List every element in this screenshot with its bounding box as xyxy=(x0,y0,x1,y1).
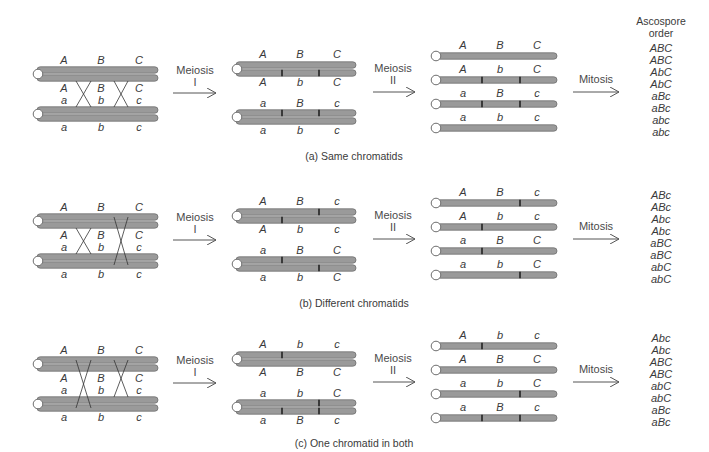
ascospore-genotype: aBc xyxy=(652,90,671,102)
gene-label: C xyxy=(135,229,143,241)
centromere-icon xyxy=(431,365,441,375)
meiosis-2-label: Meiosis xyxy=(374,352,412,364)
gene-label: B xyxy=(496,353,503,365)
chromatid xyxy=(37,365,158,371)
gene-label: c xyxy=(534,329,540,341)
gene-label: c xyxy=(136,121,142,133)
chromatid xyxy=(436,343,557,349)
gene-label: c xyxy=(534,401,540,413)
gene-label: C xyxy=(533,63,541,75)
gene-label: b xyxy=(497,258,503,270)
gene-label: B xyxy=(496,39,503,51)
ascospore-genotype: abC xyxy=(651,392,671,404)
centromere-icon xyxy=(232,402,242,412)
gene-label: b xyxy=(297,124,303,136)
gene-label: a xyxy=(260,414,266,426)
gene-label: C xyxy=(533,234,541,246)
panel-c: ABCABCabcabcMeiosisIAbcABCabCaBcMeiosisI… xyxy=(33,329,672,449)
meiosis-2-roman: II xyxy=(390,364,396,376)
gene-label: C xyxy=(333,271,341,283)
panel-caption: (b) Different chromatids xyxy=(299,297,409,309)
gene-label: B xyxy=(97,54,104,66)
centromere-icon xyxy=(431,389,441,399)
ascospore-genotype: aBc xyxy=(652,102,671,114)
ascospore-order-header-line2: order xyxy=(649,27,674,39)
mitosis-label: Mitosis xyxy=(579,363,614,375)
gene-label: A xyxy=(258,366,266,378)
gene-label: b xyxy=(98,384,104,396)
gene-label: A xyxy=(59,229,67,241)
ascospore-genotype: abC xyxy=(651,273,671,285)
meiosis-2-roman: II xyxy=(390,221,396,233)
meiosis-1-roman: I xyxy=(193,366,196,378)
ascospore-genotype: ABC xyxy=(649,356,673,368)
chromatid xyxy=(436,125,557,131)
ascospore-genotype: aBc xyxy=(652,404,671,416)
gene-label: C xyxy=(333,76,341,88)
gene-label: B xyxy=(496,186,503,198)
gene-label: b xyxy=(497,329,503,341)
ascospore-genotype: ABC xyxy=(649,42,673,54)
gene-label: c xyxy=(334,223,340,235)
gene-label: A xyxy=(258,195,266,207)
chromatid xyxy=(236,110,356,116)
chromatid xyxy=(436,53,557,59)
gene-label: C xyxy=(533,258,541,270)
chromatid xyxy=(436,391,557,397)
meiosis-1-label: Meiosis xyxy=(176,354,214,366)
gene-label: A xyxy=(258,48,266,60)
gene-label: b xyxy=(497,63,503,75)
gene-label: C xyxy=(533,353,541,365)
centromere-icon xyxy=(431,99,441,109)
gene-label: C xyxy=(533,39,541,51)
meiosis-1-label: Meiosis xyxy=(176,64,214,76)
gene-label: a xyxy=(260,244,266,256)
centromere-icon xyxy=(431,123,441,133)
gene-label: C xyxy=(333,387,341,399)
ascospore-genotype: abC xyxy=(651,380,671,392)
centromere-icon xyxy=(232,354,242,364)
ascospore-genotype: ABC xyxy=(649,368,673,380)
gene-label: c xyxy=(334,338,340,350)
gene-label: c xyxy=(334,195,340,207)
gene-label: c xyxy=(534,210,540,222)
centromere-icon xyxy=(232,112,242,122)
centromere-icon xyxy=(232,259,242,269)
gene-label: B xyxy=(296,414,303,426)
ascospore-genotype: abc xyxy=(652,114,670,126)
ascospore-genotype: Abc xyxy=(651,225,671,237)
gene-label: a xyxy=(460,87,466,99)
gene-label: A xyxy=(458,186,466,198)
gene-label: B xyxy=(296,195,303,207)
ascospore-genotype: ABc xyxy=(650,201,672,213)
gene-label: B xyxy=(97,82,104,94)
centromere-icon xyxy=(33,359,43,369)
centromere-icon xyxy=(431,75,441,85)
gene-label: B xyxy=(496,234,503,246)
gene-label: c xyxy=(334,414,340,426)
gene-label: a xyxy=(61,268,67,280)
chromatid xyxy=(37,222,158,228)
gene-label: B xyxy=(296,244,303,256)
ascospore-genotype: abC xyxy=(651,261,671,273)
gene-label: c xyxy=(136,411,142,423)
centromere-icon xyxy=(431,198,441,208)
gene-label: C xyxy=(333,48,341,60)
centromere-icon xyxy=(431,341,441,351)
chromatid xyxy=(236,257,356,263)
gene-label: B xyxy=(97,372,104,384)
gene-label: a xyxy=(61,121,67,133)
gene-label: c xyxy=(136,268,142,280)
gene-label: b xyxy=(497,377,503,389)
chromatid xyxy=(436,101,557,107)
gene-label: B xyxy=(296,97,303,109)
gene-label: A xyxy=(458,353,466,365)
gene-label: c xyxy=(136,384,142,396)
gene-label: b xyxy=(497,210,503,222)
gene-label: C xyxy=(135,54,143,66)
gene-label: c xyxy=(334,97,340,109)
gene-label: b xyxy=(98,268,104,280)
chromatid xyxy=(37,67,158,73)
gene-label: B xyxy=(97,344,104,356)
ascospore-genotype: ABc xyxy=(650,189,672,201)
